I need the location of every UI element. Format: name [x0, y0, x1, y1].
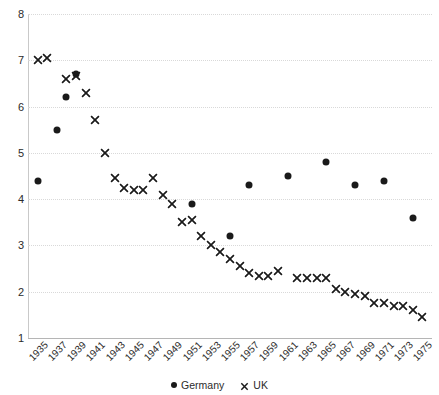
data-point-germany-1957: [246, 182, 253, 189]
legend-circle-icon: [171, 382, 177, 388]
data-point-germany-1937: [53, 126, 60, 133]
x-tick-label-1975: 1975: [412, 340, 435, 363]
data-point-germany-1971: [380, 177, 387, 184]
x-axis-ticks: 1935193719391941194319451947194919511953…: [28, 340, 432, 376]
x-tick-label-1941: 1941: [85, 340, 108, 363]
x-tick-label-1973: 1973: [392, 340, 415, 363]
data-point-uk-1939: [71, 71, 82, 82]
x-tick-label-1939: 1939: [65, 340, 88, 363]
legend-entry-uk[interactable]: UK: [240, 379, 268, 391]
legend-label: UK: [253, 379, 268, 391]
x-tick-label-1947: 1947: [142, 340, 165, 363]
x-tick-label-1953: 1953: [200, 340, 223, 363]
scatter-chart: 12345678 1935193719391941194319451947194…: [0, 0, 439, 395]
data-point-germany-1951: [188, 200, 195, 207]
y-tick-label-5: 5: [4, 148, 24, 159]
data-point-uk-1941: [90, 115, 101, 126]
data-point-uk-1960: [273, 265, 284, 276]
x-tick-label-1957: 1957: [239, 340, 262, 363]
data-point-germany-1965: [323, 159, 330, 166]
x-tick-label-1971: 1971: [373, 340, 396, 363]
data-point-germany-1968: [352, 182, 359, 189]
data-point-germany-1955: [227, 233, 234, 240]
data-point-uk-1940: [80, 87, 91, 98]
data-point-uk-1942: [99, 147, 110, 158]
data-point-germany-1938: [63, 94, 70, 101]
x-tick-label-1969: 1969: [354, 340, 377, 363]
y-tick-label-7: 7: [4, 55, 24, 66]
x-tick-label-1943: 1943: [104, 340, 127, 363]
gridline-y-8: [28, 14, 432, 15]
x-tick-label-1935: 1935: [27, 340, 50, 363]
data-point-germany-1935: [34, 177, 41, 184]
x-tick-label-1963: 1963: [296, 340, 319, 363]
y-tick-label-6: 6: [4, 102, 24, 113]
legend-label: Germany: [181, 379, 224, 391]
data-point-uk-1947: [148, 173, 159, 184]
y-tick-label-8: 8: [4, 9, 24, 20]
x-tick-label-1967: 1967: [335, 340, 358, 363]
x-tick-label-1959: 1959: [258, 340, 281, 363]
data-point-uk-1936: [42, 52, 53, 63]
data-point-uk-1949: [167, 198, 178, 209]
x-tick-label-1951: 1951: [181, 340, 204, 363]
y-tick-label-3: 3: [4, 240, 24, 251]
x-tick-label-1937: 1937: [46, 340, 69, 363]
x-tick-label-1949: 1949: [162, 340, 185, 363]
gridline-y-1: [28, 338, 432, 339]
gridline-y-5: [28, 153, 432, 154]
y-tick-label-4: 4: [4, 194, 24, 205]
data-point-uk-1975: [417, 312, 428, 323]
x-tick-label-1955: 1955: [219, 340, 242, 363]
gridline-y-6: [28, 107, 432, 108]
gridline-y-2: [28, 292, 432, 293]
data-point-uk-1946: [138, 184, 149, 195]
data-point-germany-1974: [409, 214, 416, 221]
y-tick-label-1: 1: [4, 333, 24, 344]
data-point-uk-1965: [321, 272, 332, 283]
gridline-y-4: [28, 199, 432, 200]
legend-cross-icon: [240, 381, 249, 390]
plot-area: [28, 14, 432, 338]
gridline-y-7: [28, 60, 432, 61]
legend-entry-germany[interactable]: Germany: [171, 379, 224, 391]
chart-legend: GermanyUK: [0, 378, 439, 392]
data-point-uk-1951: [186, 214, 197, 225]
y-tick-label-2: 2: [4, 287, 24, 298]
gridline-y-3: [28, 245, 432, 246]
x-tick-label-1961: 1961: [277, 340, 300, 363]
data-point-germany-1961: [284, 173, 291, 180]
y-axis-ticks: 12345678: [0, 14, 24, 338]
x-tick-label-1945: 1945: [123, 340, 146, 363]
x-tick-label-1965: 1965: [315, 340, 338, 363]
